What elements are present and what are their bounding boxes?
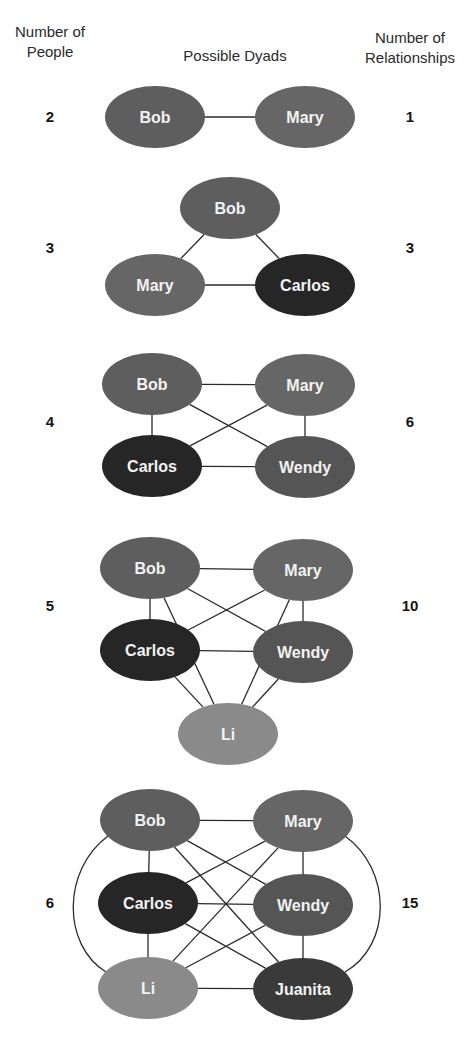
node-label: Wendy — [279, 459, 331, 476]
node-li: Li — [178, 703, 278, 765]
node-bob: Bob — [180, 177, 280, 239]
node-label: Bob — [136, 376, 167, 393]
edge-carlos-wendy — [198, 904, 253, 905]
node-label: Bob — [139, 109, 170, 126]
edge-bob-mary — [181, 235, 204, 259]
node-juanita: Juanita — [253, 958, 353, 1020]
node-mary: Mary — [255, 354, 355, 416]
node-label: Mary — [284, 813, 321, 830]
node-label: Mary — [286, 109, 323, 126]
node-li: Li — [98, 957, 198, 1019]
node-label: Mary — [284, 562, 321, 579]
node-carlos: Carlos — [102, 435, 202, 497]
node-bob: Bob — [102, 353, 202, 415]
stage-6-people: BobMaryCarlosWendyLiJuanita — [73, 789, 380, 1020]
node-label: Carlos — [123, 895, 173, 912]
stage-2-people: BobMary — [105, 86, 355, 148]
node-label: Bob — [134, 560, 165, 577]
edge-bob-carlos — [256, 235, 279, 259]
node-bob: Bob — [100, 789, 200, 851]
edge-bob-carlos — [149, 851, 150, 872]
node-label: Carlos — [125, 642, 175, 659]
node-bob: Bob — [100, 537, 200, 599]
node-carlos: Carlos — [255, 254, 355, 316]
edge-carlos-wendy — [200, 651, 253, 652]
node-wendy: Wendy — [253, 874, 353, 936]
node-label: Li — [221, 726, 235, 743]
stage-5-people: BobMaryCarlosWendyLi — [100, 537, 353, 765]
node-label: Mary — [286, 377, 323, 394]
node-mary: Mary — [253, 539, 353, 601]
node-label: Carlos — [280, 277, 330, 294]
node-carlos: Carlos — [98, 872, 198, 934]
stage-4-people: BobMaryCarlosWendy — [102, 353, 355, 498]
node-bob: Bob — [105, 86, 205, 148]
edge-bob-mary — [200, 569, 253, 570]
node-wendy: Wendy — [255, 436, 355, 498]
node-label: Bob — [134, 812, 165, 829]
dyad-diagram: BobMaryBobMaryCarlosBobMaryCarlosWendyBo… — [0, 0, 472, 1037]
node-label: Wendy — [277, 644, 329, 661]
stage-3-people: BobMaryCarlos — [105, 177, 355, 316]
edge-carlos-li — [175, 677, 203, 707]
node-label: Bob — [214, 200, 245, 217]
node-carlos: Carlos — [100, 619, 200, 681]
node-mary: Mary — [105, 254, 205, 316]
node-label: Li — [141, 980, 155, 997]
node-label: Juanita — [275, 981, 331, 998]
node-label: Carlos — [127, 458, 177, 475]
node-label: Wendy — [277, 897, 329, 914]
edge-wendy-li — [253, 679, 279, 707]
node-mary: Mary — [255, 86, 355, 148]
node-label: Mary — [136, 277, 173, 294]
node-mary: Mary — [253, 790, 353, 852]
node-wendy: Wendy — [253, 621, 353, 683]
